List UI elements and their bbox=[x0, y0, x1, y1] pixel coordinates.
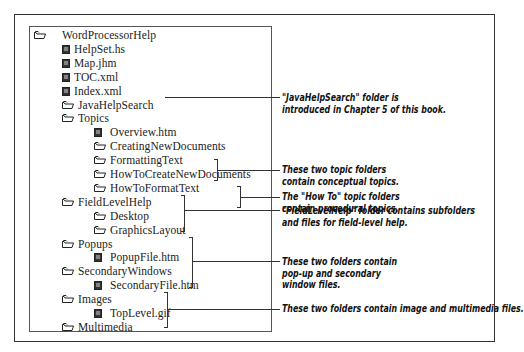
tree-item-label: SecondaryWindows bbox=[78, 264, 172, 278]
tree-item-label: FieldLevelHelp bbox=[78, 195, 152, 209]
tree-item-label: HowToFormatText bbox=[110, 181, 199, 195]
tree-item-label: HelpSet.hs bbox=[74, 42, 125, 56]
tree-item-label: Popups bbox=[78, 237, 112, 251]
tree-item-label: Multimedia bbox=[78, 320, 133, 334]
tree-item-label: TopLevel.gif bbox=[110, 306, 171, 320]
tree-item-label: Index.xml bbox=[74, 84, 122, 98]
annotation-javahelpsearch: "JavaHelpSearch" folder isintroduced in … bbox=[282, 92, 446, 115]
annotation-images-multimedia: These two folders contain image and mult… bbox=[282, 303, 524, 315]
tree-item-label: Desktop bbox=[110, 209, 149, 223]
tree-item-label: PopupFile.htm bbox=[110, 250, 179, 264]
tree-item-label: FormattingText bbox=[110, 153, 183, 167]
annotation-popups-secondary: These two folders containpop-up and seco… bbox=[282, 256, 397, 291]
annotation-fieldlevelhelp-text: "FieldLevelHelp" folder contains subfold… bbox=[282, 205, 475, 228]
tree-item-label: GraphicsLayout bbox=[110, 223, 186, 237]
tree-item-label: Map.jhm bbox=[74, 56, 117, 70]
tree-item-label: Overview.htm bbox=[110, 125, 177, 139]
tree-item-label: CreatingNewDocuments bbox=[110, 139, 226, 153]
tree-item-label: Topics bbox=[78, 111, 109, 125]
tree-item-label: Images bbox=[78, 292, 112, 306]
tree-item-label: WordProcessorHelp bbox=[62, 28, 156, 42]
tree-item-label: JavaHelpSearch bbox=[78, 98, 153, 112]
annotation-conceptual-topics: These two topic folderscontain conceptua… bbox=[282, 164, 399, 187]
tree-item-label: TOC.xml bbox=[74, 70, 118, 84]
tree-item-label: SecondaryFile.htm bbox=[110, 278, 199, 292]
